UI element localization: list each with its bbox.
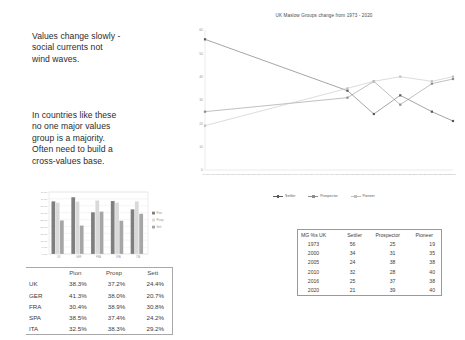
mg-percentages-table-container: MG %s UK Settler Prospector Pioneer 1973… (297, 229, 442, 296)
table-cell: UK (26, 279, 56, 290)
table-row: ITA32.5%38.3%29.2% (26, 323, 172, 334)
country-table-header-row: Pion Prosp Sett (26, 268, 172, 279)
y-axis-tick-label: 40 (199, 75, 203, 79)
bar-ger-prosp (75, 202, 79, 254)
bar-chart-y-tick-label: 15.0% (40, 233, 48, 236)
table-cell: 25 (369, 239, 409, 248)
bar-uk-sett (60, 220, 64, 254)
y-axis-tick-label: 50 (199, 52, 203, 56)
data-point-settler (346, 90, 348, 92)
data-point-settler (431, 111, 433, 113)
bar-ita-pion (131, 209, 135, 254)
table-cell: 21 (341, 286, 369, 295)
bar-chart-y-tick-label: 10.0% (40, 240, 48, 243)
bar-chart-svg: 0.0%5.0%10.0%15.0%20.0%25.0%30.0%35.0%40… (30, 186, 178, 264)
legend-entry-pioneer: Pioneer (351, 194, 375, 198)
table-cell: 37 (369, 276, 409, 285)
table-cell: 56 (341, 239, 369, 248)
table-row: UK38.3%37.2%24.4% (26, 279, 172, 290)
bar-fra-sett (100, 212, 104, 254)
data-point-prospector (399, 104, 401, 106)
quote-text-values-change: Values change slowly - social currents n… (32, 31, 174, 65)
table-cell: 38 (409, 276, 441, 285)
table-cell: 30.4% (56, 301, 95, 312)
table-cell: 34 (341, 249, 369, 258)
data-point-prospector (452, 78, 454, 80)
table-cell: 28 (369, 267, 409, 276)
bar-uk-pion (51, 201, 55, 254)
legend-swatch-prospector (308, 196, 318, 197)
data-point-prospector (346, 97, 348, 99)
table-cell: 39 (369, 286, 409, 295)
line-chart-plot-area: 0102030405060197319741975197619771978197… (191, 26, 459, 186)
legend-label-pioneer: Pioneer (362, 194, 374, 198)
mg-table-col-settler: Settler (341, 230, 369, 239)
table-cell: 2016 (298, 276, 341, 285)
data-point-pioneer (431, 80, 433, 82)
table-cell: 24.4% (133, 279, 172, 290)
table-cell: 40 (409, 267, 441, 276)
y-axis-tick-label: 10 (199, 145, 203, 149)
line-series-settler (205, 39, 453, 121)
bar-chart-x-tick-label: FRA (96, 255, 101, 259)
data-point-pioneer (346, 87, 348, 89)
country-table-body: UK38.3%37.2%24.4%GER41.3%38.0%20.7%FRA30… (26, 279, 172, 334)
table-cell: 41.3% (56, 290, 95, 301)
table-cell: GER (26, 290, 56, 301)
line-chart-svg: 0102030405060197319741975197619771978197… (191, 26, 459, 186)
country-percentages-table-container: Pion Prosp Sett UK38.3%37.2%24.4%GER41.3… (26, 267, 173, 335)
table-cell: 40 (409, 286, 441, 295)
mg-table-head: MG %s UK Settler Prospector Pioneer (298, 230, 441, 239)
bar-spa-pion (111, 201, 115, 254)
bar-spa-prosp (115, 202, 119, 254)
data-point-settler (452, 120, 454, 122)
bar-uk-prosp (56, 203, 60, 254)
table-cell: 38 (409, 258, 441, 267)
mg-table-header-row: MG %s UK Settler Prospector Pioneer (298, 230, 441, 239)
table-cell: 24.2% (133, 312, 172, 323)
data-point-settler (204, 38, 206, 40)
bar-ger-sett (80, 225, 84, 254)
data-point-settler (373, 113, 375, 115)
bar-legend-label-pion: Pion (157, 211, 163, 215)
bar-chart-y-tick-label: 45.0% (40, 191, 48, 194)
bar-spa-sett (119, 221, 123, 254)
data-point-pioneer (399, 76, 401, 78)
table-cell: ITA (26, 323, 56, 334)
line-chart-legend: Settler Prospector Pioneer (185, 194, 463, 198)
table-cell: 25 (341, 276, 369, 285)
table-cell: 30.8% (133, 301, 172, 312)
bar-chart-y-tick-label: 20.0% (40, 226, 48, 229)
table-cell: 2010 (298, 267, 341, 276)
table-cell: 37.2% (95, 279, 134, 290)
y-axis-tick-label: 0 (201, 168, 203, 172)
legend-swatch-settler (273, 196, 283, 197)
bar-chart-y-tick-label: 40.0% (40, 198, 48, 201)
table-row: 2005243838 (298, 258, 441, 267)
y-axis-tick-label: 20 (199, 122, 203, 126)
table-cell: 38.9% (95, 301, 134, 312)
table-row: SPA38.5%37.4%24.2% (26, 312, 172, 323)
bar-chart-y-tick-label: 25.0% (40, 219, 48, 222)
legend-swatch-pioneer (351, 196, 361, 197)
table-cell: 2020 (298, 286, 341, 295)
table-row: FRA30.4%38.9%30.8% (26, 301, 172, 312)
y-axis-tick-label: 60 (199, 28, 203, 32)
table-cell: 20.7% (133, 290, 172, 301)
country-table-col-pion: Pion (56, 268, 95, 279)
legend-label-prospector: Prospector (320, 194, 337, 198)
y-axis-tick-label: 30 (199, 98, 203, 102)
table-cell: 1973 (298, 239, 341, 248)
bar-ita-sett (139, 214, 143, 254)
line-chart-panel: UK Maslow Groups change from 1973 - 2020… (185, 4, 463, 209)
table-cell: 38.0% (95, 290, 134, 301)
table-row: 1973562519 (298, 239, 441, 248)
mg-table-col-pioneer: Pioneer (409, 230, 441, 239)
bar-fra-prosp (95, 200, 99, 254)
country-table-col-prosp: Prosp (95, 268, 134, 279)
table-cell: 37.4% (95, 312, 134, 323)
table-cell: 2000 (298, 249, 341, 258)
table-cell: 29.2% (133, 323, 172, 334)
country-percentages-table: Pion Prosp Sett UK38.3%37.2%24.4%GER41.3… (26, 268, 172, 334)
table-cell: 31 (369, 249, 409, 258)
